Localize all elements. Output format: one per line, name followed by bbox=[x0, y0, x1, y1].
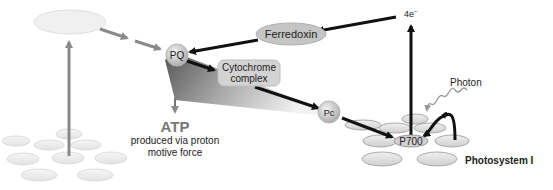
photon-label: Photon bbox=[450, 77, 482, 88]
arrow-ferredoxin-to-pq bbox=[190, 40, 258, 52]
pq-node: PQ bbox=[166, 44, 188, 66]
p700-node: P700 bbox=[394, 135, 428, 147]
ferredoxin-label: Ferredoxin bbox=[265, 28, 318, 40]
faded-acceptor-node bbox=[34, 10, 106, 34]
faded-arrow-to-pq bbox=[100, 29, 160, 49]
electrons-label-group: 4e− bbox=[404, 8, 418, 19]
p700-label: P700 bbox=[399, 136, 423, 147]
cytochrome-label-line2: complex bbox=[230, 73, 267, 84]
cyclic-electron-flow-diagram: Ferredoxin PQ Cytochrome complex Pc P700… bbox=[0, 0, 553, 190]
arrow-4e-to-ferredoxin bbox=[318, 17, 396, 31]
atp-label: ATP bbox=[161, 118, 190, 135]
faded-photosystem-ii bbox=[2, 129, 127, 181]
pc-label: Pc bbox=[324, 108, 335, 118]
atp-description-line1: produced via proton bbox=[131, 135, 219, 146]
photon-wave-icon bbox=[427, 88, 467, 110]
cytochrome-complex-node: Cytochrome complex bbox=[218, 60, 280, 86]
pc-node: Pc bbox=[318, 101, 340, 123]
atp-description-line2: motive force bbox=[148, 147, 203, 158]
photosystem-label: Photosystem I bbox=[465, 155, 534, 166]
cytochrome-label-line1: Cytochrome bbox=[222, 62, 276, 73]
pq-label: PQ bbox=[170, 50, 185, 61]
electrons-label: 4e− bbox=[404, 8, 418, 19]
ferredoxin-node: Ferredoxin bbox=[256, 23, 326, 45]
